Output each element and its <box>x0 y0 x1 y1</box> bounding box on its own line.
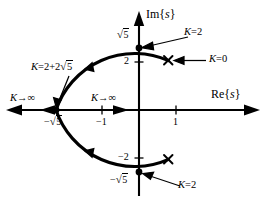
annotation-k-infinity-right: K→∞ <box>91 93 116 104</box>
leader-k2-upper-arrowhead <box>142 42 154 50</box>
imag-axis-title: Im{s} <box>146 8 176 20</box>
real-axis-title: Re{s} <box>211 88 241 100</box>
tick-label-x-minus-sqrt5: −√5 <box>44 116 62 127</box>
real-axis-left-arrowhead <box>6 105 22 116</box>
plot-canvas <box>0 0 270 207</box>
point-k2-lower <box>136 169 143 176</box>
axes-group <box>6 11 260 196</box>
leader-k2-lower-arrowhead <box>143 172 154 179</box>
real-axis-right-arrowhead <box>244 105 260 116</box>
imag-axis-top-arrowhead <box>134 11 144 26</box>
annotation-k-2-lower: K=2 <box>178 180 196 191</box>
tick-label-y-sqrt5: √5 <box>117 29 129 40</box>
tick-label-x-minus1: −1 <box>96 117 107 127</box>
tick-label-x-1: 1 <box>173 117 178 127</box>
annotation-k-0: K=0 <box>209 54 227 65</box>
arrow-k-infinity-right <box>113 105 129 115</box>
tick-label-y-minus-sqrt5: −√5 <box>110 174 128 185</box>
annotation-k-2-upper: K=2 <box>184 27 202 38</box>
locus-lower-arc <box>56 110 169 167</box>
tick-label-y-minus2: −2 <box>118 152 129 162</box>
annotation-k-break-in: K=2+2√5 <box>31 61 73 73</box>
leader-k2-lower <box>150 176 180 186</box>
annotation-k-infinity-left: K→∞ <box>10 93 35 104</box>
leader-k0-arrowhead <box>174 57 184 65</box>
tick-label-y-2: 2 <box>124 56 129 66</box>
leader-k2-upper <box>149 37 188 46</box>
root-locus-figure: Im{s} Re{s} √5 2 −2 −√5 −√5 −1 1 K=2 K=0… <box>0 0 270 207</box>
callout-leader-lines-group <box>54 37 206 186</box>
